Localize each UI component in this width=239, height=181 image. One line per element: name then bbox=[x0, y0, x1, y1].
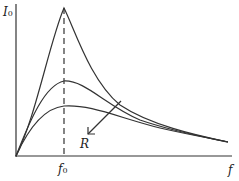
curve-mid-peak bbox=[16, 81, 228, 156]
r-arrow-label: R bbox=[80, 138, 89, 150]
x-tick-f0-label: f0 bbox=[58, 163, 68, 175]
y-axis-label: I0 bbox=[3, 6, 13, 18]
r-arrow-shaft bbox=[88, 101, 121, 134]
x-axis-label: f bbox=[228, 164, 232, 176]
curve-high-peak bbox=[16, 8, 228, 156]
curve-low-peak bbox=[16, 106, 228, 156]
resonance-curves-diagram bbox=[0, 0, 239, 181]
